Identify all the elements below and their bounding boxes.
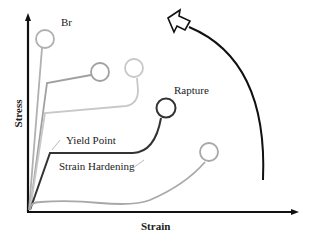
fracture-point-marker — [125, 59, 143, 77]
label-rapture: Rapture — [174, 85, 209, 96]
rapture-point-marker — [157, 99, 176, 118]
yield-point-pointer — [52, 140, 60, 150]
fracture-point-marker — [200, 143, 218, 161]
y-axis-arrow-icon — [25, 13, 31, 21]
x-axis-arrow-icon — [291, 209, 299, 215]
label-yield-point: Yield Point — [66, 135, 116, 146]
strain-hardening-pointer — [133, 160, 144, 168]
diagram-graphics — [0, 0, 309, 240]
arrowhead-outline-icon — [168, 10, 190, 32]
y-axis-label: Stress — [13, 94, 24, 134]
fracture-point-marker — [91, 63, 109, 81]
curve-ductile-rapture — [30, 99, 176, 211]
stress-strain-diagram: Br Rapture Yield Point Strain Hardening … — [0, 0, 309, 240]
fracture-point-marker — [36, 30, 54, 48]
label-br: Br — [61, 17, 72, 28]
label-strain-hardening: Strain Hardening — [59, 161, 134, 172]
x-axis-label: Strain — [141, 221, 170, 232]
